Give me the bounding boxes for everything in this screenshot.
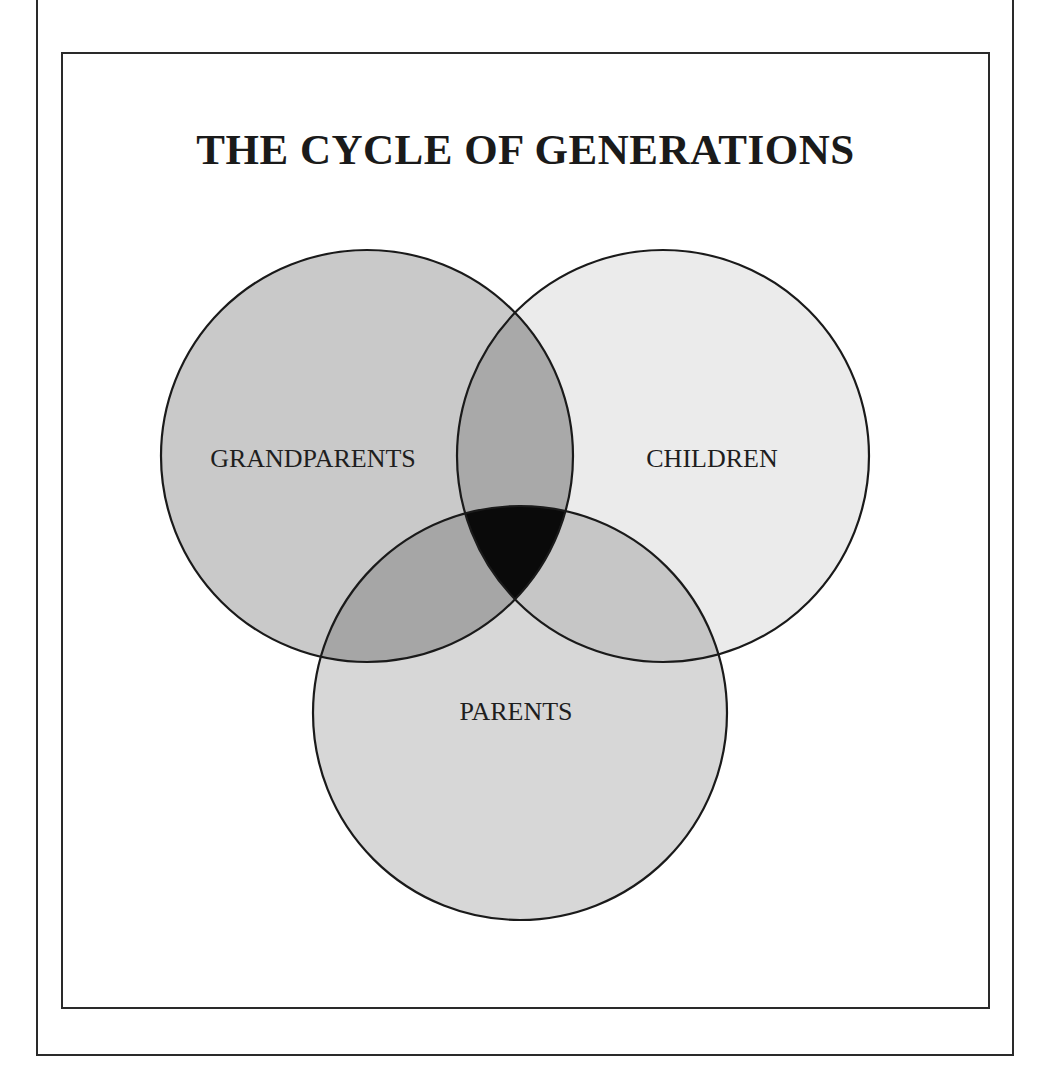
grandparents-label: GRANDPARENTS bbox=[210, 444, 416, 473]
venn-diagram: GRANDPARENTS CHILDREN PARENTS bbox=[0, 0, 1050, 1081]
children-label: CHILDREN bbox=[646, 444, 778, 473]
parents-label: PARENTS bbox=[459, 697, 572, 726]
